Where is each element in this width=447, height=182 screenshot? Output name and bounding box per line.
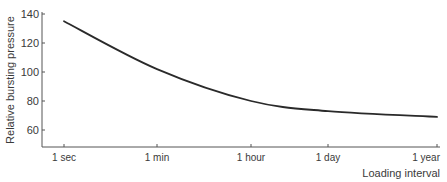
y-tick-label: 120 (21, 37, 39, 49)
data-line (64, 21, 437, 117)
x-tick-label: 1 sec (52, 152, 76, 163)
x-tick-label: 1 min (145, 152, 169, 163)
y-tick-label: 140 (21, 8, 39, 20)
chart: 6080100120140 1 sec1 min1 hour1 day1 yea… (0, 0, 447, 182)
y-axis-label: Relative bursting pressure (4, 16, 16, 144)
y-tick-label: 60 (27, 124, 39, 136)
x-tick-label: 1 year (412, 152, 440, 163)
axes (42, 12, 440, 147)
y-tick-label: 80 (27, 95, 39, 107)
y-tick-label: 100 (21, 66, 39, 78)
x-tick-label: 1 day (316, 152, 340, 163)
x-tick-label: 1 hour (237, 152, 266, 163)
chart-svg: 6080100120140 1 sec1 min1 hour1 day1 yea… (0, 0, 447, 182)
x-axis-label: Loading interval (362, 167, 440, 179)
y-axis-ticks: 6080100120140 (21, 8, 45, 136)
